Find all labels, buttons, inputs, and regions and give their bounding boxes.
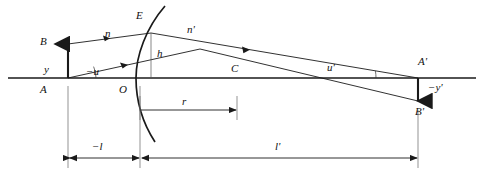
diagram-canvas: [0, 0, 483, 185]
optics-ray-diagram: B y A −u n E h O n' C u' A' −y' B' r −l …: [0, 0, 483, 185]
refracted-ray-lower: [200, 49, 418, 101]
label-image-base: A': [418, 56, 427, 67]
label-object-distance: −l: [92, 141, 102, 152]
label-image-angle: u': [327, 62, 335, 73]
label-surface-point: E: [136, 10, 143, 21]
label-object-tip: B: [40, 36, 47, 47]
label-image-distance: l': [275, 141, 280, 152]
image-distance-dimension: [141, 110, 418, 168]
label-surface-vertex: O: [119, 84, 127, 95]
radius-dimension: [140, 96, 237, 120]
label-object-angle: −u: [86, 66, 99, 77]
label-ray-height: h: [157, 48, 163, 59]
image-angle-arc: [375, 71, 376, 78]
refracted-ray-upper: [151, 33, 418, 78]
object-ray-to-vertex: [68, 44, 140, 78]
label-refracted-index: n': [187, 24, 195, 35]
label-image-tip: B': [415, 106, 424, 117]
label-object-base: A: [40, 84, 47, 95]
spherical-surface: [136, 6, 165, 142]
label-image-height: −y': [428, 82, 443, 93]
incident-ray-axial-arrowhead: [120, 63, 128, 69]
object-distance-dimension: [68, 86, 140, 168]
label-incident-index: n: [105, 28, 111, 39]
label-object-height: y: [44, 64, 49, 75]
refracted-ray-upper-arrowhead: [242, 47, 250, 54]
label-radius: r: [182, 96, 186, 107]
label-center-of-curvature: C: [231, 63, 238, 74]
